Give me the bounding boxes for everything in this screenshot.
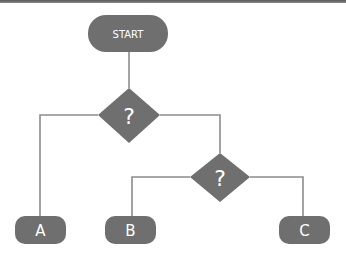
node-decision1-label: ?	[123, 104, 135, 129]
node-a[interactable]: A	[15, 216, 66, 244]
node-start-label: START	[113, 29, 145, 40]
node-c[interactable]: C	[279, 216, 330, 244]
edge-decision1-a	[40, 115, 98, 216]
node-b-label: B	[125, 222, 135, 240]
node-b[interactable]: B	[105, 216, 156, 244]
edge-decision2-b	[132, 177, 190, 216]
edge-decision2-c	[250, 177, 303, 216]
edge-decision1-decision2	[160, 115, 220, 153]
node-c-label: C	[299, 222, 309, 240]
flowchart-canvas: START ? ? A B C	[0, 0, 346, 255]
node-decision2[interactable]: ?	[190, 153, 250, 202]
node-decision2-label: ?	[214, 166, 226, 191]
node-a-label: A	[35, 222, 46, 240]
node-decision1[interactable]: ?	[98, 88, 160, 143]
node-start[interactable]: START	[88, 15, 168, 52]
